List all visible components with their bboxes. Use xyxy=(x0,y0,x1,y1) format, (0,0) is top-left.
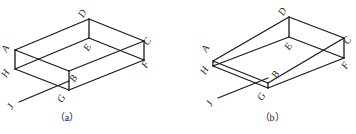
edge-g-f xyxy=(69,60,144,90)
edge-d-c xyxy=(289,17,344,38)
panel-a-vertex-labels: ABCDEFGHJ xyxy=(0,7,154,111)
vertex-label-g: G xyxy=(54,92,67,104)
edge-a-d xyxy=(15,19,89,50)
edge-h-g xyxy=(15,69,69,90)
vertex-label-e: E xyxy=(281,41,294,53)
panel-b-edges xyxy=(213,17,344,98)
vertex-label-d: D xyxy=(275,5,289,18)
vertex-label-a: A xyxy=(0,42,12,54)
vertex-label-f: F xyxy=(338,59,352,71)
vertex-label-j: J xyxy=(203,98,215,108)
vertex-label-e: E xyxy=(80,42,93,54)
edge-h-e xyxy=(213,37,289,66)
vertex-label-a: A xyxy=(198,42,212,54)
panel-b-caption: （b） xyxy=(260,112,285,123)
vertex-label-j: J xyxy=(4,101,16,111)
panel-a-caption: （a） xyxy=(55,112,79,123)
panel-a-box-diagram: ABCDEFGHJ （a） xyxy=(0,7,154,123)
edge-g-f xyxy=(268,58,344,88)
edge-e-f xyxy=(89,38,144,60)
vertex-label-f: F xyxy=(138,58,152,70)
vertex-label-c: C xyxy=(141,35,154,47)
vertex-label-g: G xyxy=(254,90,267,102)
vertex-label-c: C xyxy=(341,34,354,46)
edge-h-g xyxy=(213,66,268,88)
edge-b-a xyxy=(213,61,268,83)
edge-a-d xyxy=(213,17,289,61)
vertex-label-h: H xyxy=(0,67,12,80)
vertex-label-b: B xyxy=(269,69,282,80)
panel-b-box-diagram: ABCDEFGHJ （b） xyxy=(197,5,354,123)
edge-d-c xyxy=(89,19,144,41)
vertex-label-d: D xyxy=(75,7,89,20)
edge-b-a xyxy=(15,50,69,71)
panel-a-edges xyxy=(15,19,144,102)
diagram-canvas: ABCDEFGHJ （a） ABCDEFGHJ （b） xyxy=(0,0,356,134)
vertex-label-h: H xyxy=(197,64,211,77)
